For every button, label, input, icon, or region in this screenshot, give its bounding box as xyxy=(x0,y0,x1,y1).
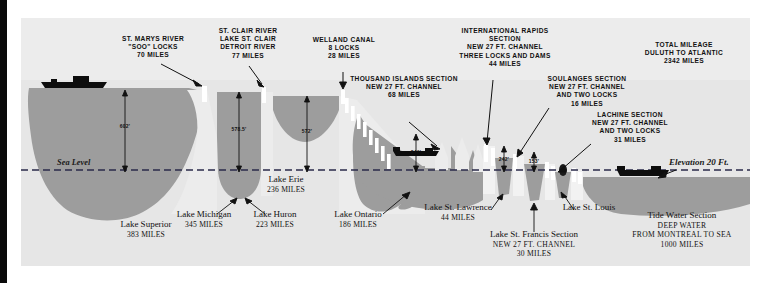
callout-line: 44 MILES xyxy=(459,60,550,68)
label-lake-st-louis: Lake St. Louis xyxy=(563,203,616,213)
callout-line: NEW 27 FT. CHANNEL xyxy=(548,83,627,91)
ship-lake-superior xyxy=(41,76,107,88)
callout-line: 28 MILES xyxy=(313,52,375,60)
page-left-black-bar xyxy=(0,0,7,283)
lock-gate-welland-top xyxy=(341,90,345,104)
elev-lake-ontario: 246' xyxy=(411,149,421,155)
section-title: Lake St. Francis Section xyxy=(490,230,578,240)
lake-name: Lake Huron xyxy=(253,210,296,220)
callout-line: DULUTH TO ATLANTIC xyxy=(645,49,723,57)
callout-welland-canal: WELLAND CANAL 8 LOCKS 28 MILES xyxy=(313,36,375,61)
lake-miles: 186 MILES xyxy=(334,220,382,230)
callout-line: 31 MILES xyxy=(592,136,668,144)
callout-line: LACHINE SECTION xyxy=(592,111,668,119)
callout-st-marys-river: ST. MARYS RIVER "SOO" LOCKS 70 MILES xyxy=(122,35,184,60)
elev-lake-erie: 572' xyxy=(302,128,312,134)
lake-name: Lake Michigan xyxy=(177,210,232,220)
callout-line: 8 LOCKS xyxy=(313,44,375,52)
callout-line: DETROIT RIVER xyxy=(219,43,278,51)
elev-lake-st-francis: 153' xyxy=(529,158,539,164)
elev-lake-michigan-huron: 578.5' xyxy=(232,126,247,132)
callout-line: THREE LOCKS AND DAMS xyxy=(459,52,550,60)
lake-miles: 223 MILES xyxy=(253,220,296,230)
callout-line: 16 MILES xyxy=(548,100,627,108)
callout-lachine-section: LACHINE SECTION NEW 27 FT. CHANNEL AND T… xyxy=(592,111,668,144)
callout-line: NEW 27 FT. CHANNEL xyxy=(350,83,458,91)
lake-miles: 44 MILES xyxy=(424,213,492,223)
lake-miles: 383 MILES xyxy=(120,230,171,240)
callout-line: INTERNATIONAL RAPIDS xyxy=(459,27,550,35)
elevation-20ft-label: Elevation 20 Ft. xyxy=(669,157,729,167)
label-lake-huron: Lake Huron 223 MILES xyxy=(253,210,296,229)
section-line: FROM MONTREAL TO SEA xyxy=(632,230,731,240)
callout-line: "SOO" LOCKS xyxy=(122,43,184,51)
diagram-page: ST. MARYS RIVER "SOO" LOCKS 70 MILES ST.… xyxy=(0,0,768,283)
label-lake-st-francis-section: Lake St. Francis Section NEW 27 FT. CHAN… xyxy=(490,230,578,259)
callout-total-mileage: TOTAL MILEAGE DULUTH TO ATLANTIC 2342 MI… xyxy=(645,41,723,66)
callout-international-rapids-section: INTERNATIONAL RAPIDS SECTION NEW 27 FT. … xyxy=(459,27,550,68)
label-lake-superior: Lake Superior 383 MILES xyxy=(120,220,171,239)
callout-st-clair-river: ST. CLAIR RIVER LAKE ST. CLAIR DETROIT R… xyxy=(219,27,278,60)
callout-line: 70 MILES xyxy=(122,51,184,59)
callout-line: TOTAL MILEAGE xyxy=(645,41,723,49)
callout-line: SECTION xyxy=(459,35,550,43)
lock-gate-stclair xyxy=(262,87,266,103)
callout-line: NEW 27 FT. CHANNEL xyxy=(459,43,550,51)
label-tide-water-section: Tide Water Section DEEP WATER FROM MONTR… xyxy=(632,211,731,249)
lake-name: Lake Ontario xyxy=(334,210,382,220)
section-line: 1000 MILES xyxy=(632,240,731,250)
label-lake-erie: Lake Erie 236 MILES xyxy=(267,175,305,194)
lake-name: Lake St. Louis xyxy=(563,203,616,213)
seaway-profile-panel: ST. MARYS RIVER "SOO" LOCKS 70 MILES ST.… xyxy=(21,18,750,266)
callout-line: 68 MILES xyxy=(350,91,458,99)
callout-line: AND TWO LOCKS xyxy=(548,91,627,99)
section-line: DEEP WATER xyxy=(632,221,731,231)
lake-miles: 236 MILES xyxy=(267,185,305,195)
callout-line: SOULANGES SECTION xyxy=(548,75,627,83)
elev-lake-superior: 602' xyxy=(120,123,130,129)
callout-line: ST. MARYS RIVER xyxy=(122,35,184,43)
callout-line: NEW 27 FT. CHANNEL xyxy=(592,119,668,127)
callout-soulanges-section: SOULANGES SECTION NEW 27 FT. CHANNEL AND… xyxy=(548,75,627,108)
section-line: 30 MILES xyxy=(490,249,578,259)
label-lake-michigan: Lake Michigan 345 MILES xyxy=(177,210,232,229)
callout-line: WELLAND CANAL xyxy=(313,36,375,44)
callout-line: 77 MILES xyxy=(219,52,278,60)
callout-line: THOUSAND ISLANDS SECTION xyxy=(350,75,458,83)
sea-level-label: Sea Level xyxy=(57,158,90,167)
callout-line: 2342 MILES xyxy=(645,57,723,65)
callout-line: AND TWO LOCKS xyxy=(592,127,668,135)
section-title: Tide Water Section xyxy=(632,211,731,221)
callout-line: ST. CLAIR RIVER xyxy=(219,27,278,35)
lake-name: Lake St. Lawrence xyxy=(424,203,492,213)
lake-name: Lake Superior xyxy=(120,220,171,230)
label-lake-ontario: Lake Ontario 186 MILES xyxy=(334,210,382,229)
lake-miles: 345 MILES xyxy=(177,220,232,230)
callout-thousand-islands-section: THOUSAND ISLANDS SECTION NEW 27 FT. CHAN… xyxy=(350,75,458,100)
lake-name: Lake Erie xyxy=(267,175,305,185)
label-lake-st-lawrence: Lake St. Lawrence 44 MILES xyxy=(424,203,492,222)
water-tide-surface xyxy=(583,177,750,186)
lock-gate-soo xyxy=(202,86,207,102)
elev-lake-st-lawrence: 242' xyxy=(499,156,509,162)
callout-line: LAKE ST. CLAIR xyxy=(219,35,278,43)
section-line: NEW 27 FT. CHANNEL xyxy=(490,240,578,250)
